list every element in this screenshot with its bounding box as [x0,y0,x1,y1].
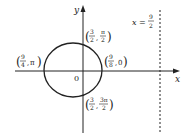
svg-text:,: , [115,59,117,67]
svg-text:9: 9 [21,53,25,60]
svg-text:(: ( [85,98,90,112]
svg-text:4: 4 [21,61,25,68]
diagram-svg: x y 0 x = 9 2 ( 3 2 , π 2 ) ( 9 8 , 0 ) … [0,0,190,136]
svg-text:2: 2 [90,104,94,111]
svg-text:π: π [101,28,105,35]
svg-text:,: , [96,102,98,110]
svg-text:π: π [30,59,35,67]
svg-text:3: 3 [90,96,94,103]
point-label-top: ( 3 2 , π 2 ) [85,28,112,44]
svg-text:2: 2 [149,22,153,29]
point-label-left: ( 9 4 , π ) [16,53,42,69]
svg-text:0: 0 [118,59,122,67]
y-axis-label: y [73,5,80,15]
y-axis-arrow-icon [81,5,86,12]
point-label-bottom: ( 3 2 , 3π 2 ) [85,96,114,112]
svg-text:): ) [109,98,114,112]
svg-text:(: ( [85,30,90,44]
svg-text:8: 8 [109,61,113,68]
point-label-right: ( 9 8 , 0 ) [104,53,128,69]
svg-text:2: 2 [90,36,94,43]
svg-text:): ) [107,30,112,44]
svg-text:2: 2 [101,36,105,43]
svg-text:): ) [37,55,42,69]
ellipse-curve [44,43,102,97]
svg-text:9: 9 [149,13,153,20]
svg-text:9: 9 [109,53,113,60]
svg-text:(: ( [104,55,109,69]
svg-text:3: 3 [90,28,94,35]
svg-text:x =: x = [132,18,146,27]
svg-text:2: 2 [102,104,106,111]
x-axis-arrow-icon [173,69,180,74]
x-axis-label: x [175,74,180,84]
svg-text:,: , [96,34,98,42]
svg-text:(: ( [16,55,21,69]
svg-text:,: , [27,59,29,67]
svg-text:): ) [123,55,128,69]
polar-ellipse-diagram: x y 0 x = 9 2 ( 3 2 , π 2 ) ( 9 8 , 0 ) … [0,0,190,136]
directrix-label: x = 9 2 [132,13,154,29]
svg-text:3π: 3π [100,96,108,103]
origin-label: 0 [74,74,79,83]
